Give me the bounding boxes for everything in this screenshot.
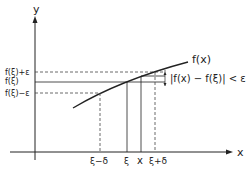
bracket-arrow-down-icon: [164, 83, 167, 86]
x-tick-x: x: [137, 155, 143, 166]
y-axis-label: y: [33, 3, 40, 16]
function-curve: [73, 62, 188, 108]
curve-label: f(x): [192, 53, 211, 66]
bracket-arrow-up-icon: [164, 72, 167, 75]
y-tick-lower: f(ξ)−ε: [5, 89, 30, 98]
y-axis-arrow-icon: [33, 16, 38, 23]
x-tick-xi: ξ: [124, 156, 129, 166]
continuity-diagram: y x f(ξ)+ε f(ξ) f(ξ)−ε f(x) |f(x) − f(ξ)…: [0, 0, 246, 171]
inequality-label: |f(x) − f(ξ)| < ε: [170, 73, 246, 85]
x-axis-label: x: [237, 146, 244, 159]
x-axis-arrow-icon: [226, 150, 233, 155]
x-tick-xi-plus-delta: ξ+δ: [149, 156, 168, 166]
y-tick-upper: f(ξ)+ε: [5, 68, 30, 77]
y-tick-mid: f(ξ): [5, 77, 19, 86]
x-tick-xi-minus-delta: ξ−δ: [90, 156, 109, 166]
